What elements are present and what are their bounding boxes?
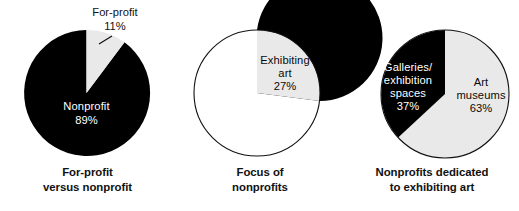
chart-nonprofits-dedicated-to-exhibiting-art: Galleries/ exhibition spaces 37% Art mus… <box>345 0 519 211</box>
pie-callout-for-profit: For-profit 11% <box>55 6 175 33</box>
chart-caption-1-line2: versus nonprofit <box>0 180 175 195</box>
pie-slice-label-art-museums-line2: museums <box>456 89 505 101</box>
chart-caption-3-line1: Nonprofits dedicated <box>345 165 519 180</box>
pie-slice-label-exhibiting-art-value: 27% <box>274 80 297 92</box>
chart-for-profit-versus-nonprofit: Nonprofit 89% For-profit 11% For-profit … <box>0 0 175 211</box>
chart-caption-2-line1: Focus of <box>175 165 345 180</box>
chart-caption-2: Focus of nonprofits <box>175 165 345 194</box>
pie-slice-label-exhibiting-art-line2: art <box>278 67 292 79</box>
pie-slice-label-art-museums-line1: Art <box>474 76 489 88</box>
pie-slice-label-nonprofit-value: 89% <box>75 114 98 126</box>
pie-chart-figure: Nonprofit 89% For-profit 11% For-profit … <box>0 0 519 211</box>
pie-chart-2: Exhibiting art 27% Cultivation 73% <box>175 0 345 165</box>
chart-caption-3-line2: to exhibiting art <box>345 180 519 195</box>
pie-slice-label-nonprofit-name: Nonprofit <box>63 100 110 112</box>
chart-focus-of-nonprofits: Exhibiting art 27% Cultivation 73% Focus… <box>175 0 345 211</box>
pie-callout-for-profit-value: 11% <box>55 20 175 34</box>
pie-slice-label-galleries-line1: Galleries/ <box>384 61 433 73</box>
pie-slice-label-galleries-line3: spaces <box>390 87 426 99</box>
pie-slice-label-galleries-line2: exhibition <box>384 74 432 86</box>
pie-slice-label-galleries-value: 37% <box>397 100 420 112</box>
pie-slice-label-cultivation-value: 73% <box>234 116 257 128</box>
pie-chart-3: Galleries/ exhibition spaces 37% Art mus… <box>345 0 519 165</box>
pie-slice-label-cultivation-name: Cultivation <box>218 102 271 114</box>
pie-callout-for-profit-name: For-profit <box>55 6 175 20</box>
pie-slice-label-art-museums-value: 63% <box>470 102 493 114</box>
chart-caption-2-line2: nonprofits <box>175 180 345 195</box>
chart-caption-1: For-profit versus nonprofit <box>0 165 175 194</box>
chart-caption-1-line1: For-profit <box>0 165 175 180</box>
chart-caption-3: Nonprofits dedicated to exhibiting art <box>345 165 519 194</box>
pie-slice-label-exhibiting-art-line1: Exhibiting <box>260 54 310 66</box>
